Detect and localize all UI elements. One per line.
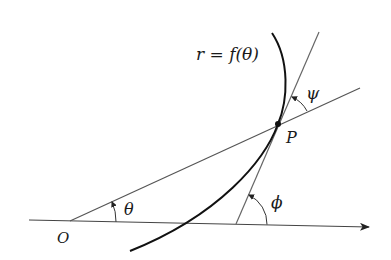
psi-label: ψ [306, 83, 320, 103]
curve-label: r = f(θ) [196, 44, 259, 64]
polar-curve [130, 33, 286, 251]
origin-label: O [57, 229, 69, 247]
radial-line [70, 88, 360, 221]
theta-arc [112, 202, 116, 222]
theta-label: θ [124, 200, 134, 219]
psi-arc [292, 97, 307, 111]
polar-tangent-diagram: r = f(θ) O P θ ϕ ψ [0, 0, 391, 260]
phi-arc [249, 195, 267, 225]
phi-label: ϕ [271, 192, 283, 212]
point-label: P [285, 128, 297, 147]
polar-axis [29, 220, 369, 227]
point-p [275, 121, 281, 127]
